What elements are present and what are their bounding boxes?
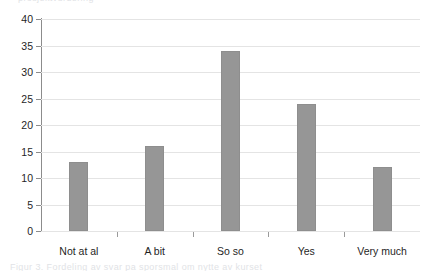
bar [221, 51, 240, 231]
bar [297, 104, 316, 231]
x-axis-category-label: Not at al [59, 245, 98, 257]
y-axis-tick [36, 231, 41, 232]
plot-area [41, 19, 420, 231]
y-axis-tick-label: 35 [7, 40, 33, 52]
y-axis-tick [36, 178, 41, 179]
y-axis-tick [36, 72, 41, 73]
y-axis-tick-label: 20 [7, 119, 33, 131]
y-axis-labels: 0510152025303540 [0, 0, 33, 267]
gridline [41, 19, 420, 20]
bar [373, 167, 392, 231]
y-axis-tick-label: 15 [7, 146, 33, 158]
x-axis-category-label: A bit [144, 245, 164, 257]
gridline [41, 46, 420, 47]
gridline [41, 231, 420, 232]
x-axis-category-label: Yes [298, 245, 315, 257]
y-axis-tick-label: 30 [7, 66, 33, 78]
x-axis-tick [268, 232, 269, 237]
y-axis-tick [36, 99, 41, 100]
y-axis-tick-label: 10 [7, 172, 33, 184]
y-axis-tick [36, 205, 41, 206]
x-axis-category-label: Very much [357, 245, 407, 257]
x-axis-category-label: So so [217, 245, 244, 257]
bar [145, 146, 164, 231]
y-axis-tick [36, 152, 41, 153]
y-axis-tick-label: 40 [7, 13, 33, 25]
y-axis-tick [36, 125, 41, 126]
y-axis-tick-label: 0 [7, 225, 33, 237]
x-axis-tick [117, 232, 118, 237]
y-axis-tick-label: 25 [7, 93, 33, 105]
bar [69, 162, 88, 231]
y-axis-tick [36, 46, 41, 47]
x-axis-tick [344, 232, 345, 237]
y-axis-tick [36, 19, 41, 20]
y-axis-tick-label: 5 [7, 199, 33, 211]
x-axis-tick [193, 232, 194, 237]
